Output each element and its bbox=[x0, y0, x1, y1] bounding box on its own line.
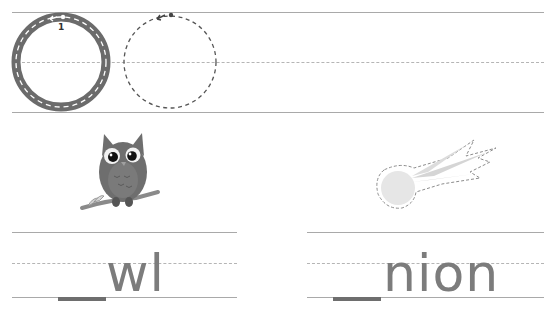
owl-icon bbox=[78, 128, 168, 218]
letter-o-trace-icon[interactable] bbox=[0, 0, 548, 120]
answer-blank[interactable] bbox=[58, 297, 106, 301]
top-line bbox=[12, 232, 237, 233]
top-line bbox=[307, 232, 544, 233]
word-partial-nion: nion bbox=[383, 247, 499, 299]
word-partial-wl: wl bbox=[106, 247, 165, 299]
answer-blank[interactable] bbox=[333, 297, 381, 301]
onion-outline-icon bbox=[370, 138, 510, 218]
